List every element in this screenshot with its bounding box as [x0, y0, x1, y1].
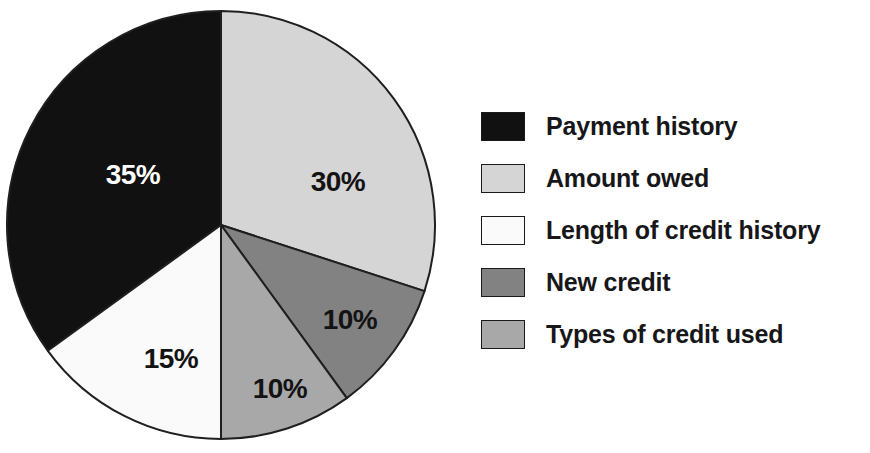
- legend-item-label: Length of credit history: [546, 216, 820, 245]
- legend-item-payment-history[interactable]: Payment history: [481, 100, 861, 152]
- legend-swatch-icon: [481, 216, 525, 245]
- pie-slice-group: [7, 11, 435, 439]
- legend-item-label: Types of credit used: [546, 320, 783, 349]
- legend-swatch-icon: [481, 164, 525, 193]
- legend-item-label: Payment history: [546, 112, 738, 141]
- legend-swatch-icon: [481, 112, 525, 141]
- legend-item-label: Amount owed: [546, 164, 709, 193]
- pie-slice-value-label: 30%: [311, 166, 366, 197]
- pie-slice-value-label: 10%: [323, 304, 378, 335]
- legend-swatch-icon: [481, 320, 525, 349]
- legend-item-new-credit[interactable]: New credit: [481, 256, 861, 308]
- legend-item-label: New credit: [546, 268, 670, 297]
- pie-slice-value-label: 35%: [106, 159, 161, 190]
- legend-item-types-of-credit-used[interactable]: Types of credit used: [481, 308, 861, 360]
- pie-slice-value-label: 15%: [144, 343, 199, 374]
- pie-slice-value-label: 10%: [253, 373, 308, 404]
- pie-chart: 35%30%15%10%10%: [5, 9, 437, 441]
- legend-item-amount-owed[interactable]: Amount owed: [481, 152, 861, 204]
- chart-legend: Payment historyAmount owedLength of cred…: [481, 100, 861, 360]
- pie-chart-figure: 35%30%15%10%10% Payment historyAmount ow…: [0, 0, 870, 453]
- legend-swatch-icon: [481, 268, 525, 297]
- pie-chart-svg: 35%30%15%10%10%: [5, 9, 437, 441]
- legend-item-length-of-credit-history[interactable]: Length of credit history: [481, 204, 861, 256]
